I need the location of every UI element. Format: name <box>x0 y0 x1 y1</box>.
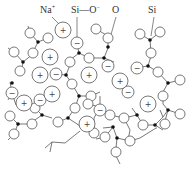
svg-text:+: + <box>60 26 67 35</box>
svg-text:+: + <box>47 53 54 62</box>
svg-text:+: + <box>37 71 44 80</box>
bridging-oxygens <box>5 24 185 157</box>
svg-text:+: + <box>145 100 152 109</box>
svg-text:+: + <box>84 120 91 129</box>
label-na: Na+ <box>40 4 56 15</box>
label-si-o: Si—O− <box>71 4 101 15</box>
svg-text:+: + <box>21 99 28 108</box>
svg-text:−: − <box>74 39 81 48</box>
svg-text:−: − <box>37 96 44 105</box>
svg-text:−: − <box>125 88 132 97</box>
label-o: O <box>112 4 119 15</box>
svg-text:+: + <box>86 71 93 80</box>
sodium-silicate-network-diagram: Na+ Si—O− O Si <box>0 0 195 176</box>
svg-text:−: − <box>53 70 60 79</box>
svg-text:+: + <box>49 90 56 99</box>
svg-text:−: − <box>9 89 16 98</box>
svg-text:−: − <box>97 106 104 115</box>
svg-text:+: + <box>117 77 124 86</box>
svg-text:−: − <box>134 64 141 73</box>
label-si: Si <box>148 4 157 15</box>
svg-text:−: − <box>105 62 112 71</box>
